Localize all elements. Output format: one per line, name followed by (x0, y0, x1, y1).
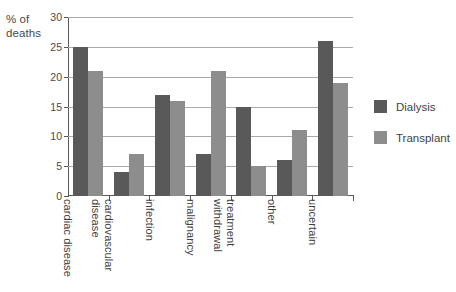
x-axis-label-treatment-withdrawal: treatmentwithdrawal (212, 199, 237, 252)
x-label-line: withdrawal (212, 199, 225, 252)
y-tick-label: 25 (50, 41, 62, 53)
plot-area: 051015202530 (68, 17, 353, 196)
bars-layer (68, 17, 353, 196)
x-label-line: other (266, 199, 278, 225)
x-label-line: cardiac disease (62, 199, 74, 277)
bar-transplant-cardiovascular-disease (129, 154, 144, 196)
x-label-line: uncertain (307, 199, 319, 245)
x-label-line: malignancy (185, 199, 197, 256)
x-axis-label-uncertain: uncertain (306, 199, 319, 245)
y-tick-label: 30 (50, 11, 62, 23)
y-axis-title-line2: deaths (6, 27, 41, 39)
y-tick-label: 5 (56, 160, 62, 172)
x-axis-label-cardiac-disease: cardiac disease (62, 199, 75, 277)
bar-transplant-treatment-withdrawal (251, 166, 266, 196)
bar-transplant-other (292, 130, 307, 196)
y-tick-label: 10 (50, 130, 62, 142)
bar-dialysis-uncertain (318, 41, 333, 196)
y-tick-mark (64, 196, 68, 197)
x-axis-label-infection: infection (143, 199, 156, 241)
x-axis-labels: cardiac diseasecardiovasculardiseaseinfe… (68, 199, 353, 289)
legend-swatch-icon (374, 131, 387, 144)
chart-legend: DialysisTransplant (374, 100, 454, 162)
bar-transplant-malignancy (211, 71, 226, 196)
bar-transplant-uncertain (333, 83, 348, 196)
x-label-line: infection (144, 199, 156, 241)
x-axis-label-malignancy: malignancy (184, 199, 197, 256)
bar-chart: % of deaths 051015202530 cardiac disease… (0, 0, 456, 292)
bar-dialysis-cardiac-disease (73, 47, 88, 196)
x-label-line: treatment (225, 199, 237, 246)
y-tick-label: 15 (50, 101, 62, 113)
bar-dialysis-treatment-withdrawal (236, 107, 251, 197)
bar-dialysis-infection (155, 95, 170, 196)
x-axis-label-other: other (265, 199, 278, 225)
x-tick-mark (353, 196, 354, 201)
y-tick-label: 20 (50, 71, 62, 83)
legend-label: Dialysis (396, 101, 436, 113)
bar-dialysis-cardiovascular-disease (114, 172, 129, 196)
bar-dialysis-other (277, 160, 292, 196)
legend-swatch-icon (374, 100, 387, 113)
bar-dialysis-malignancy (196, 154, 211, 196)
legend-label: Transplant (396, 132, 450, 144)
bar-transplant-cardiac-disease (88, 71, 103, 196)
y-axis-title-line1: % of (6, 13, 29, 25)
x-axis-label-cardiovascular-disease: cardiovasculardisease (90, 199, 115, 271)
x-label-line: cardiovascular (103, 199, 115, 271)
x-label-line: disease (90, 199, 103, 271)
legend-item-transplant[interactable]: Transplant (374, 131, 454, 144)
bar-transplant-infection (170, 101, 185, 196)
legend-item-dialysis[interactable]: Dialysis (374, 100, 454, 113)
